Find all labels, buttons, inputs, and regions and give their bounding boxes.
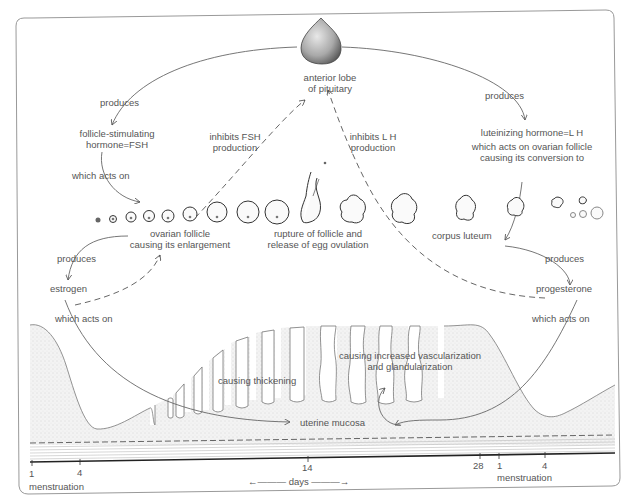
vascularization-line1: causing increased vascularization [335,350,485,361]
produces-progesterone-label: produces [545,253,584,264]
ovarian-follicle-line2: causing its enlargement [125,239,235,250]
pituitary-gland-icon [301,18,341,64]
tick-day-28: 28 [473,460,484,471]
progesterone-label: progesterone [536,283,592,294]
progesterone-acts-on-label: which acts on [532,313,590,324]
rupture-line1: rupture of follicle and [263,228,373,239]
lh-label-line1: luteinizing hormone=L H [462,127,602,138]
tick-day-1-next: 1 [497,460,502,471]
fsh-acts-on-label: which acts on [72,170,130,181]
produces-lh-label: produces [485,90,524,101]
pituitary-label-line1: anterior lobe [290,72,370,83]
ovarian-follicle-label: ovarian follicle causing its enlargement [125,228,235,250]
vascularization-label: causing increased vascularization and gl… [335,350,485,372]
tick-day-4: 4 [77,467,82,478]
days-arrow-right: ———→ [311,476,349,487]
fsh-label-line1: follicle-stimulating [62,128,172,139]
inhibits-lh-line2: production [338,142,408,153]
inhibits-fsh-label: inhibits FSH production [200,131,270,153]
corpus-luteum-label: corpus luteum [432,230,492,241]
uterine-mucosa-label: uterine mucosa [300,417,365,428]
thickening-label: causing thickening [218,375,296,386]
inhibits-lh-line1: inhibits L H [338,131,408,142]
rupture-label: rupture of follicle and release of egg o… [263,228,373,250]
lh-label-line2: which acts on ovarian follicle [462,141,602,152]
pituitary-label: anterior lobe of pituitary [290,72,370,94]
inhibits-lh-label: inhibits L H production [338,131,408,153]
menstruation-end-label: menstruation [497,472,552,483]
feedback-arrows [75,90,545,305]
pituitary-label-line2: of pituitary [290,83,370,94]
tick-day-1: 1 [29,468,34,479]
fsh-label: follicle-stimulating hormone=FSH [62,128,172,150]
lh-label: luteinizing hormone=L H which acts on ov… [462,127,602,163]
menstrual-cycle-diagram: anterior lobe of pituitary produces foll… [0,0,628,503]
rupture-line2: release of egg ovulation [263,239,373,250]
days-label: ←——— days ———→ [248,476,349,487]
ovarian-follicle-line1: ovarian follicle [125,228,235,239]
fsh-label-line2: hormone=FSH [62,139,172,150]
produces-estrogen-label: produces [57,253,96,264]
lh-label-line3: causing its conversion to [462,152,602,163]
estrogen-acts-on-label: which acts on [55,313,113,324]
inhibits-fsh-line1: inhibits FSH [200,131,270,142]
menstruation-start-label: menstruation [29,481,84,492]
produces-fsh-label: produces [100,97,139,108]
days-text: days [289,476,309,487]
tick-day-4-next: 4 [542,460,547,471]
tick-day-14: 14 [302,462,313,473]
days-arrow-left: ←——— [248,476,286,487]
follicle-sequence [96,162,604,224]
vascularization-line2: and glandularization [335,361,485,372]
inhibits-fsh-line2: production [200,142,270,153]
estrogen-label: estrogen [50,283,87,294]
